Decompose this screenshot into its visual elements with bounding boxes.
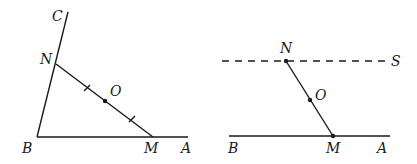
label-M: M: [143, 140, 159, 156]
label-B: B: [227, 140, 238, 156]
ray-BC: [37, 12, 68, 137]
label-O: O: [315, 87, 327, 103]
left-figure: C N O B M A: [21, 8, 191, 156]
label-N: N: [39, 51, 53, 67]
point-O: [103, 99, 107, 103]
label-B: B: [21, 140, 32, 156]
label-S: S: [391, 53, 401, 69]
label-M: M: [325, 140, 341, 156]
label-A: A: [375, 140, 387, 156]
label-N: N: [279, 40, 293, 56]
point-N: [284, 59, 288, 63]
label-C: C: [52, 8, 63, 24]
point-O: [308, 98, 312, 102]
label-A: A: [179, 140, 191, 156]
point-M: [331, 134, 335, 138]
geometry-diagram: C N O B M A N S O B M A: [0, 0, 417, 164]
label-O: O: [110, 83, 122, 99]
right-figure: N S O B M A: [222, 40, 401, 156]
